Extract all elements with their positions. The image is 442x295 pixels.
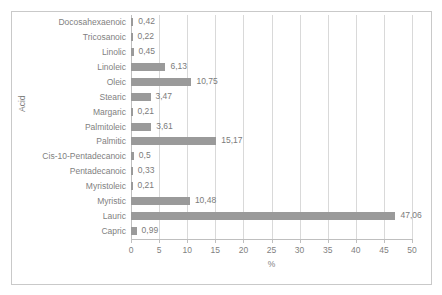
bar xyxy=(131,48,134,56)
bar xyxy=(131,78,191,86)
x-axis-tick-label: 40 xyxy=(341,244,371,256)
bar xyxy=(131,212,395,220)
bar-row: 15,17 xyxy=(131,134,412,149)
x-axis-tick xyxy=(159,239,160,243)
bar xyxy=(131,137,216,145)
bar-row: 0,33 xyxy=(131,164,412,179)
bar-value-label: 10,48 xyxy=(195,193,216,207)
bar xyxy=(131,227,137,235)
category-label: Docosahexaenoic xyxy=(0,15,126,30)
x-axis-title: % xyxy=(131,259,412,269)
bar-value-label: 6,13 xyxy=(170,59,187,73)
x-axis-tick-label: 30 xyxy=(285,244,315,256)
bar-row: 0,21 xyxy=(131,105,412,120)
category-label: Margaric xyxy=(0,105,126,120)
x-axis-tick xyxy=(384,239,385,243)
bar xyxy=(131,18,133,26)
x-axis-tick xyxy=(187,239,188,243)
bar-row: 0,5 xyxy=(131,149,412,164)
bar-value-label: 47,06 xyxy=(400,208,421,222)
x-axis-tick xyxy=(272,239,273,243)
category-label: Linoleic xyxy=(0,60,126,75)
x-axis-tick xyxy=(215,239,216,243)
bar-row: 0,42 xyxy=(131,15,412,30)
bar xyxy=(131,152,134,160)
x-axis-tick-label: 35 xyxy=(313,244,343,256)
bar-value-label: 0,45 xyxy=(139,44,156,58)
x-axis-tick xyxy=(328,239,329,243)
category-label: Cis-10-Pentadecanoic xyxy=(0,149,126,164)
x-axis-tick-label: 50 xyxy=(397,244,427,256)
bar-value-label: 15,17 xyxy=(221,133,242,147)
bar-row: 0,45 xyxy=(131,45,412,60)
bar-row: 3,61 xyxy=(131,120,412,135)
bar-value-label: 0,21 xyxy=(138,104,155,118)
category-label: Tricosanoic xyxy=(0,30,126,45)
fatty-acid-composition-bar-chart: 0,420,220,456,1310,753,470,213,6115,170,… xyxy=(0,0,442,295)
bar-row: 6,13 xyxy=(131,60,412,75)
bar xyxy=(131,197,190,205)
x-axis-tick-label: 15 xyxy=(200,244,230,256)
category-label: Stearic xyxy=(0,90,126,105)
category-label: Myristoleic xyxy=(0,179,126,194)
bar-row: 47,06 xyxy=(131,209,412,224)
x-axis-tick-label: 20 xyxy=(228,244,258,256)
bar-row: 10,48 xyxy=(131,194,412,209)
bar-value-label: 0,42 xyxy=(138,14,155,28)
category-label: Palmitic xyxy=(0,134,126,149)
bar-row: 10,75 xyxy=(131,75,412,90)
x-axis-tick-label: 45 xyxy=(369,244,399,256)
category-label: Pentadecanoic xyxy=(0,164,126,179)
x-axis-tick-label: 5 xyxy=(144,244,174,256)
plot-area: 0,420,220,456,1310,753,470,213,6115,170,… xyxy=(131,15,412,239)
bar xyxy=(131,182,133,190)
x-axis-tick xyxy=(412,239,413,243)
bar-value-label: 0,22 xyxy=(138,29,155,43)
bar-value-label: 3,61 xyxy=(156,119,173,133)
bar xyxy=(131,108,133,116)
bar-value-label: 3,47 xyxy=(156,89,173,103)
x-axis-tick xyxy=(356,239,357,243)
category-label: Myristic xyxy=(0,194,126,209)
category-label: Oleic xyxy=(0,75,126,90)
bar-value-label: 0,99 xyxy=(142,223,159,237)
bar xyxy=(131,123,151,131)
bar xyxy=(131,63,165,71)
bar xyxy=(131,93,151,101)
category-label: Capric xyxy=(0,224,126,239)
x-axis-tick xyxy=(300,239,301,243)
x-axis-tick xyxy=(131,239,132,243)
bar-row: 0,99 xyxy=(131,224,412,239)
gridline xyxy=(412,15,413,239)
bar-value-label: 0,5 xyxy=(139,148,151,162)
category-label: Lauric xyxy=(0,209,126,224)
bar xyxy=(131,167,133,175)
bar xyxy=(131,33,133,41)
x-axis-tick-label: 0 xyxy=(116,244,146,256)
bar-value-label: 0,33 xyxy=(138,163,155,177)
bar-value-label: 0,21 xyxy=(138,178,155,192)
bar-row: 0,21 xyxy=(131,179,412,194)
bar-row: 3,47 xyxy=(131,90,412,105)
category-label: Linolic xyxy=(0,45,126,60)
category-label: Palmitoleic xyxy=(0,120,126,135)
x-axis-tick-label: 10 xyxy=(172,244,202,256)
x-axis-tick xyxy=(243,239,244,243)
x-axis-tick-label: 25 xyxy=(257,244,287,256)
bar-value-label: 10,75 xyxy=(196,74,217,88)
bar-row: 0,22 xyxy=(131,30,412,45)
